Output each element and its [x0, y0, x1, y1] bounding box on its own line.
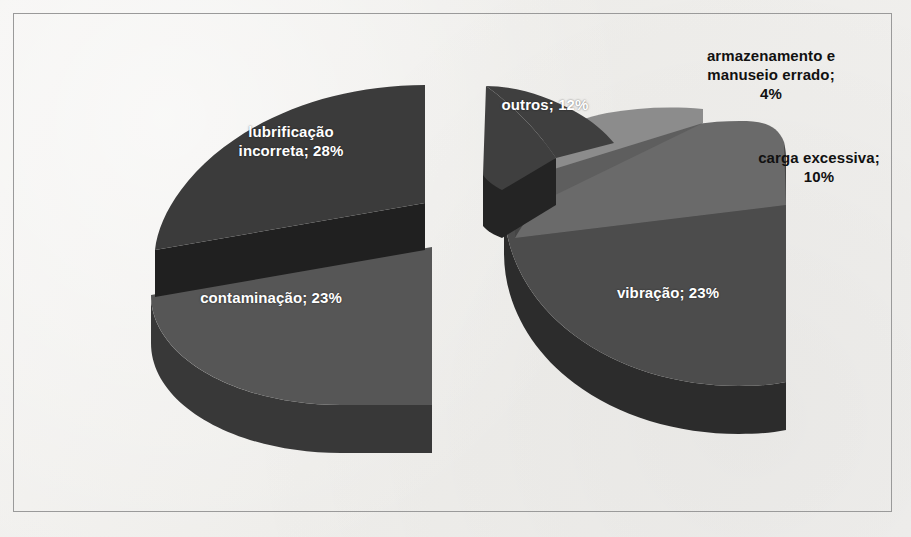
slice-label-vibracao: vibração; 23% [588, 283, 748, 302]
slice-label-lubrificacao-incorreta: lubrificação incorreta; 28% [196, 122, 386, 160]
pie-chart: lubrificação incorreta; 28% contaminação… [0, 0, 911, 537]
slice-label-outros: outros; 12% [470, 95, 620, 114]
slice-vibracao[interactable] [504, 205, 786, 434]
slice-label-armazenamento-e-manuseio-errado: armazenamento e manuseio errado; 4% [664, 46, 878, 104]
slice-label-contaminacao: contaminação; 23% [146, 288, 396, 307]
chart-page: lubrificação incorreta; 28% contaminação… [0, 0, 911, 537]
slice-label-carga-excessiva: carga excessiva; 10% [734, 148, 904, 186]
